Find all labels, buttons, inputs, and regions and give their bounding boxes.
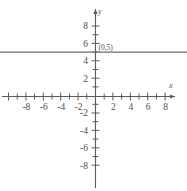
x-tick-label: 2 [111, 102, 116, 112]
x-axis-label: x [168, 81, 173, 90]
y-tick-label: -8 [80, 161, 88, 171]
y-tick-label: -2 [80, 108, 88, 118]
y-tick-label: 6 [83, 39, 88, 49]
y-tick-label: 8 [83, 21, 88, 31]
x-tick-label: 6 [146, 102, 151, 112]
x-tick-label: -4 [57, 102, 65, 112]
x-tick-label: 8 [163, 102, 168, 112]
x-tick-label: -8 [22, 102, 30, 112]
y-axis-label: y [97, 7, 102, 16]
graph-figure: Slope = 0, y-intercept = 5 [0, 0, 187, 191]
y-tick-label: 4 [83, 56, 88, 66]
y-tick-label: -6 [80, 143, 88, 153]
coordinate-plane: -8 -6 -4 -2 2 4 6 8 8 6 4 2 -2 -4 -6 -8 … [0, 0, 187, 191]
plot-background [0, 0, 187, 191]
y-tick-label: -4 [80, 126, 88, 136]
x-tick-label: -6 [40, 102, 48, 112]
y-intercept-label: (0,5) [99, 43, 114, 52]
y-tick-label: 2 [83, 74, 88, 84]
x-tick-label: 4 [128, 102, 133, 112]
